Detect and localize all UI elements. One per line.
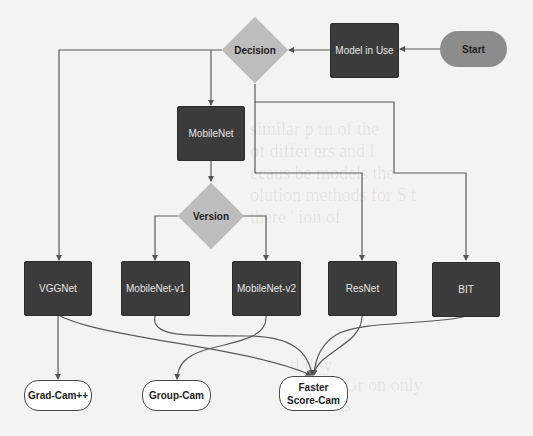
edge-v2-groupcam	[177, 316, 266, 379]
group-cam-node: Group-Cam	[142, 380, 211, 411]
edge-v1-fastscorecam	[155, 316, 312, 375]
mobilenet-node: MobileNet	[177, 106, 245, 161]
model-in-use-node: Model in Use	[330, 23, 399, 78]
faster-score-cam-node: Faster Score-Cam	[279, 376, 348, 411]
edge-decision-resnet	[255, 102, 362, 260]
edge-resnet-fastscorecam	[313, 316, 362, 375]
vggnet-node: VGGNet	[24, 261, 92, 316]
vggnet-label: VGGNet	[39, 283, 77, 294]
edge-version-v2	[243, 216, 266, 260]
flowchart-canvas: similar p rn of the of differ ers and l …	[0, 0, 533, 436]
edge-version-v1	[155, 216, 178, 260]
decision-node: Decision	[222, 16, 288, 84]
mobilenet-label: MobileNet	[188, 128, 233, 139]
edge-vggnet-fastscorecam	[60, 316, 311, 375]
start-node: Start	[440, 31, 507, 67]
version-label: Version	[178, 182, 244, 250]
faster-score-cam-label-line2: Score-Cam	[287, 394, 340, 407]
decision-label: Decision	[222, 16, 288, 84]
version-node: Version	[178, 182, 244, 250]
grad-cam-pp-label: Grad-Cam++	[28, 389, 88, 402]
mobilenet-v1-label: MobileNet-v1	[126, 283, 185, 294]
bit-label: BIT	[458, 284, 474, 295]
grad-cam-pp-node: Grad-Cam++	[24, 380, 92, 411]
mobilenet-v2-node: MobileNet-v2	[232, 261, 301, 316]
faster-score-cam-label-line1: Faster	[298, 381, 328, 394]
start-label: Start	[462, 44, 485, 55]
bit-node: BIT	[432, 262, 500, 317]
resnet-label: ResNet	[346, 283, 379, 294]
group-cam-label: Group-Cam	[149, 389, 204, 402]
model-in-use-label: Model in Use	[335, 45, 393, 56]
edge-bit-fastscorecam	[314, 316, 466, 375]
edge-decision-bit	[255, 84, 466, 260]
resnet-node: ResNet	[328, 261, 397, 316]
mobilenet-v2-label: MobileNet-v2	[237, 283, 296, 294]
mobilenet-v1-node: MobileNet-v1	[121, 261, 190, 316]
